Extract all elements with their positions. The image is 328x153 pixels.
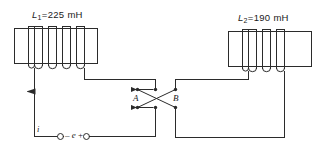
- l2-value: 190: [254, 12, 271, 23]
- l1-value: 225: [48, 9, 65, 20]
- inductor-l2-symbol: [229, 30, 312, 72]
- source-emf-symbol: e: [72, 130, 76, 140]
- wire-l1-right-to-switch-a-upper: [85, 69, 156, 90]
- wire-l2-right-to-switch-b-lower: [176, 72, 285, 138]
- source-terminal-right: [84, 134, 90, 140]
- l2-unit: mH: [273, 12, 288, 23]
- current-label: i: [37, 124, 39, 134]
- switch-contact-a-label: A: [133, 93, 139, 103]
- source-plus-sign: +: [78, 130, 83, 140]
- crossover-switch-symbol: [137, 90, 176, 108]
- inductor-l1-symbol: [15, 27, 98, 69]
- source-minus-sign: –: [65, 130, 70, 140]
- source-terminal-left: [58, 134, 64, 140]
- inductor-l1-label: L1=225 mH: [32, 9, 83, 21]
- inductor-l2-label: L2=190 mH: [238, 12, 289, 24]
- source-label: – e +: [65, 130, 83, 140]
- circuit-diagram-canvas: L1=225 mH L2=190 mH A B i – e +: [0, 0, 328, 153]
- wire-source-to-switch-a-lower: [90, 108, 156, 137]
- l1-unit: mH: [67, 9, 82, 20]
- switch-contact-b-label: B: [173, 93, 179, 103]
- wire-l2-left-to-switch-b-upper: [176, 72, 249, 90]
